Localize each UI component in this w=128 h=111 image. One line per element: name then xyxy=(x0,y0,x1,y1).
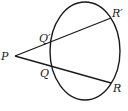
label-R-prime: R′ xyxy=(111,7,123,20)
label-Q-prime: Q′ xyxy=(39,32,51,45)
label-P: P xyxy=(0,50,9,63)
circle-outline xyxy=(50,2,120,100)
label-Q: Q xyxy=(40,67,49,80)
secant-line-upper xyxy=(15,18,111,56)
secant-line-lower xyxy=(15,56,111,83)
secant-diagram: P Q′ R′ Q R xyxy=(0,0,128,111)
label-R: R xyxy=(112,82,121,95)
